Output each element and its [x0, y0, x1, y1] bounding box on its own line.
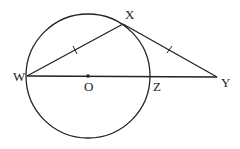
label-x: X [125, 7, 135, 22]
label-y: Y [221, 75, 231, 90]
diagram-svg: W O Z X Y [0, 0, 240, 149]
tick-mark-wx [73, 46, 77, 54]
label-w: W [13, 69, 26, 84]
geometry-diagram: W O Z X Y [0, 0, 240, 149]
center-point-o [86, 74, 90, 78]
label-o: O [84, 79, 93, 94]
segment-xy [123, 24, 217, 77]
label-z: Z [153, 79, 161, 94]
segment-wy [27, 76, 217, 77]
